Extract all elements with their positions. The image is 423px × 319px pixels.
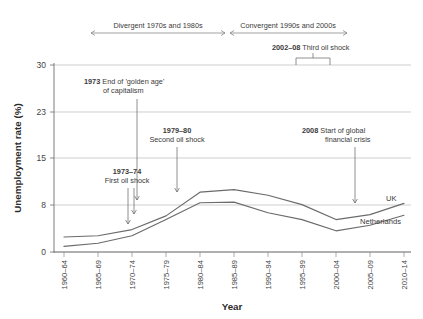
period-span-divergent-label: Divergent 1970s and 1980s — [113, 21, 203, 30]
annotation-golden-age-label: 1973 End of 'golden age' — [84, 77, 165, 86]
unemployment-rate-chart: Divergent 1970s and 1980s Convergent 199… — [0, 0, 423, 319]
x-tick-10: 2010–14 — [400, 260, 409, 290]
annotation-financial-crisis-label: 2008 Start of global — [302, 126, 366, 135]
y-tick-8: 8 — [41, 200, 46, 210]
x-tick-1: 1965–69 — [94, 260, 103, 290]
x-tick-4: 1980–84 — [196, 260, 205, 290]
series-label-uk: UK — [386, 194, 397, 203]
annotation-financial-crisis-text: Start of global — [318, 126, 365, 135]
x-tick-6: 1990–94 — [264, 260, 273, 290]
x-axis: 1960–64 1965–69 1970–74 1975–79 1980–84 … — [54, 252, 411, 312]
annotation-first-oil-shock: 1973–74 First oil shock — [105, 167, 150, 224]
period-span-convergent: Convergent 1990s and 2000s — [230, 21, 347, 36]
annotation-golden-age-text: End of 'golden age' — [100, 77, 165, 86]
x-tick-9: 2005–09 — [366, 260, 375, 290]
annotation-third-oil-shock-bold: 2002–08 — [272, 43, 300, 52]
annotation-golden-age-bold: 1973 — [84, 77, 100, 86]
annotation-golden-age-line2: of capitalism — [103, 86, 144, 95]
annotation-third-oil-shock-label: 2002–08 Third oil shock — [272, 43, 350, 52]
annotation-second-oil-shock-line2: Second oil shock — [149, 135, 205, 144]
series-line-netherlands — [64, 202, 404, 246]
annotation-financial-crisis: 2008 Start of global financial crisis — [302, 126, 371, 203]
x-tick-0: 1960–64 — [60, 260, 69, 290]
annotation-financial-crisis-line2: financial crisis — [325, 135, 371, 144]
annotation-first-oil-shock-line2: First oil shock — [105, 176, 150, 185]
y-tick-0: 0 — [41, 247, 46, 257]
x-tick-3: 1975–79 — [162, 260, 171, 290]
annotation-third-oil-shock: 2002–08 Third oil shock — [272, 43, 350, 65]
period-span-convergent-label: Convergent 1990s and 2000s — [240, 21, 336, 30]
x-tick-8: 2000–04 — [332, 260, 341, 290]
y-axis-title: Unemployment rate (%) — [12, 103, 23, 212]
x-tick-7: 1995–99 — [298, 260, 307, 290]
series-group — [64, 190, 404, 247]
annotation-second-oil-shock-bold: 1979–80 — [163, 126, 191, 135]
x-tick-2: 1970–74 — [128, 260, 137, 290]
y-tick-15: 15 — [37, 153, 47, 163]
y-tick-30: 30 — [37, 60, 47, 70]
series-label-netherlands: Netherlands — [360, 217, 401, 226]
annotation-third-oil-shock-text: Third oil shock — [300, 43, 349, 52]
y-tick-23: 23 — [37, 107, 47, 117]
series-line-uk — [64, 190, 404, 237]
period-span-divergent: Divergent 1970s and 1980s — [91, 21, 225, 36]
x-axis-title: Year — [222, 301, 243, 312]
chart-svg: Divergent 1970s and 1980s Convergent 199… — [0, 0, 423, 319]
annotation-second-oil-shock: 1979–80 Second oil shock — [149, 126, 205, 192]
y-axis: 30 23 15 8 0 Unemployment rate (%) — [12, 60, 54, 257]
annotation-financial-crisis-bold: 2008 — [302, 126, 318, 135]
annotation-first-oil-shock-bold: 1973–74 — [113, 167, 142, 176]
x-tick-5: 1985–89 — [230, 260, 239, 290]
